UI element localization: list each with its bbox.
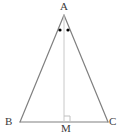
equal-angle-dot-right-icon (66, 28, 69, 31)
vertex-label-c: C (109, 116, 116, 127)
vertex-label-m: M (61, 123, 71, 134)
segment-ac (64, 15, 108, 122)
vertex-label-a: A (60, 1, 68, 12)
segment-ab (20, 15, 64, 122)
equal-angle-dot-left-icon (58, 28, 61, 31)
geometry-canvas (0, 0, 120, 136)
geometry-figure: A B C M (0, 0, 120, 136)
vertex-label-b: B (5, 116, 12, 127)
